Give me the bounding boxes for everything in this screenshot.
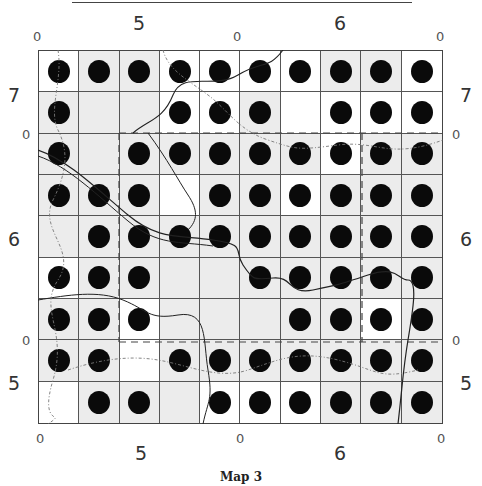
record-dot-icon: [88, 184, 110, 207]
grid-cell: [200, 340, 240, 381]
grid-cell: [361, 382, 401, 423]
grid-cell: [321, 340, 361, 381]
grid-cell: [240, 216, 280, 257]
record-dot-icon: [249, 60, 271, 83]
grid-cell: [281, 216, 321, 257]
grid-cell: [402, 340, 442, 381]
record-dot-icon: [128, 142, 150, 165]
top-axis-label: 5: [133, 14, 145, 33]
grid-cell: [321, 134, 361, 175]
record-dot-icon: [249, 349, 271, 372]
record-dot-icon: [48, 184, 70, 207]
grid-cell: [200, 51, 240, 92]
grid-cell: [39, 216, 79, 257]
grid-cell: [361, 51, 401, 92]
record-dot-icon: [88, 60, 110, 83]
record-dot-icon: [370, 391, 392, 414]
grid-cell: [321, 92, 361, 133]
record-dot-icon: [249, 142, 271, 165]
grid-cell: [281, 51, 321, 92]
grid-cell: [39, 340, 79, 381]
grid-cell: [281, 258, 321, 299]
grid-cell: [361, 258, 401, 299]
record-dot-icon: [289, 142, 311, 165]
grid-cell: [321, 258, 361, 299]
record-dot-icon: [128, 308, 150, 331]
grid-cell: [39, 382, 79, 423]
record-dot-icon: [330, 60, 352, 83]
grid-cell: [160, 216, 200, 257]
record-dot-icon: [330, 184, 352, 207]
record-dot-icon: [128, 391, 150, 414]
bottom-axis-label: 5: [135, 444, 147, 463]
record-dot-icon: [370, 349, 392, 372]
record-dot-icon: [330, 391, 352, 414]
grid-cell: [402, 382, 442, 423]
record-dot-icon: [249, 391, 271, 414]
map-caption: Map 3: [0, 470, 482, 484]
grid-cell: [361, 299, 401, 340]
grid-cell: [240, 340, 280, 381]
grid-cell: [402, 216, 442, 257]
grid-cell: [120, 92, 160, 133]
grid-cell: [402, 92, 442, 133]
grid-cell: [120, 134, 160, 175]
grid-cell: [402, 258, 442, 299]
grid-cell: [160, 340, 200, 381]
distribution-grid: [38, 50, 443, 424]
grid-cell: [200, 299, 240, 340]
grid-cell: [240, 382, 280, 423]
record-dot-icon: [330, 101, 352, 124]
grid-cell: [200, 216, 240, 257]
record-dot-icon: [88, 349, 110, 372]
record-dot-icon: [249, 101, 271, 124]
record-dot-icon: [330, 349, 352, 372]
record-dot-icon: [48, 266, 70, 289]
top-axis-minor-label: 0: [233, 30, 241, 43]
left-axis-label: 7: [8, 86, 20, 105]
grid-cell: [281, 134, 321, 175]
record-dot-icon: [209, 225, 231, 248]
right-axis-label: 5: [460, 374, 472, 393]
record-dot-icon: [209, 60, 231, 83]
grid-cell: [240, 51, 280, 92]
record-dot-icon: [169, 101, 191, 124]
grid-cell: [200, 92, 240, 133]
grid-cell: [361, 175, 401, 216]
record-dot-icon: [249, 266, 271, 289]
grid-cell: [240, 175, 280, 216]
grid-cell: [120, 299, 160, 340]
record-dot-icon: [249, 225, 271, 248]
grid-cell: [120, 340, 160, 381]
record-dot-icon: [411, 60, 433, 83]
record-dot-icon: [128, 266, 150, 289]
grid-cell: [79, 258, 119, 299]
record-dot-icon: [48, 349, 70, 372]
grid-cell: [200, 134, 240, 175]
grid-cell: [120, 175, 160, 216]
bottom-axis-minor-label: 0: [437, 432, 445, 445]
record-dot-icon: [249, 184, 271, 207]
grid-cell: [361, 134, 401, 175]
grid-cell: [160, 92, 200, 133]
record-dot-icon: [48, 308, 70, 331]
grid-cell: [361, 216, 401, 257]
record-dot-icon: [289, 60, 311, 83]
record-dot-icon: [370, 142, 392, 165]
grid-cell: [321, 175, 361, 216]
record-dot-icon: [411, 225, 433, 248]
record-dot-icon: [411, 391, 433, 414]
grid-cell: [79, 51, 119, 92]
left-axis-minor-label: 0: [22, 334, 30, 347]
record-dot-icon: [88, 266, 110, 289]
record-dot-icon: [411, 142, 433, 165]
record-dot-icon: [289, 225, 311, 248]
grid-cell: [79, 216, 119, 257]
left-axis-label: 6: [8, 230, 20, 249]
left-axis-label: 5: [8, 374, 20, 393]
bottom-axis-minor-label: 0: [36, 432, 44, 445]
grid-cell: [402, 134, 442, 175]
grid-cell: [321, 299, 361, 340]
grid-cell: [402, 299, 442, 340]
record-dot-icon: [370, 308, 392, 331]
